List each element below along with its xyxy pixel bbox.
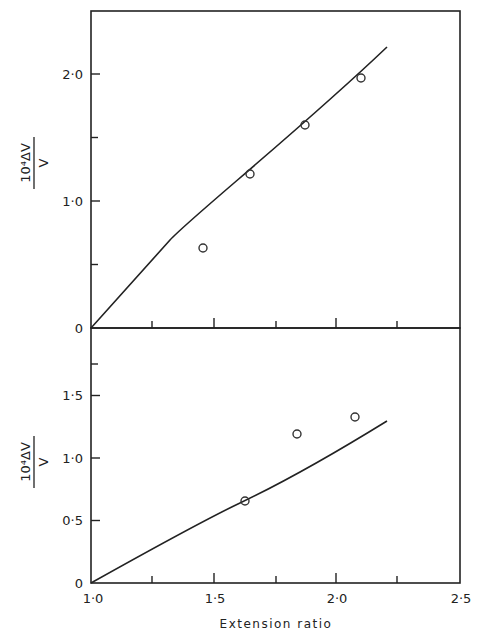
x-tick-label: 1·5	[205, 591, 226, 606]
x-tick-label: 2·5	[451, 591, 472, 606]
y-tick-label: 0·5	[62, 513, 83, 528]
top-x-ticks	[152, 318, 397, 328]
bottom-y-axis-title: 10⁴ΔV V	[18, 436, 51, 488]
data-point	[351, 413, 359, 421]
y-tick-label: 0	[75, 576, 83, 591]
x-tick-label: 2·0	[327, 591, 348, 606]
data-point	[246, 170, 254, 178]
bottom-panel	[91, 328, 460, 583]
y-tick-label: 2·0	[62, 67, 83, 82]
y-tick-label: 0	[75, 321, 83, 336]
y-axis-denominator: V	[36, 457, 51, 466]
y-axis-numerator: 10⁴ΔV	[18, 442, 33, 482]
top-panel-frame	[91, 11, 460, 328]
y-axis-numerator: 10⁴ΔV	[18, 143, 33, 183]
top-data-points	[199, 74, 365, 252]
bottom-x-ticks	[152, 573, 397, 583]
figure: 2·0 1·0 0 1·5 1·0 0·5 0 1·0 1·5 2·0 2·5 …	[0, 0, 480, 637]
y-tick-label: 1·0	[62, 194, 83, 209]
y-tick-label: 1·5	[62, 388, 83, 403]
bottom-theory-curve	[91, 421, 387, 583]
x-axis-title: Extension ratio	[220, 617, 333, 631]
bottom-y-ticks	[91, 364, 100, 521]
bottom-panel-frame	[91, 328, 460, 583]
y-tick-label: 1·0	[62, 451, 83, 466]
data-point	[357, 74, 365, 82]
top-y-axis-title: 10⁴ΔV V	[18, 137, 51, 189]
top-theory-curve	[91, 47, 387, 328]
x-tick-label: 1·0	[83, 591, 104, 606]
top-y-ticks	[91, 74, 100, 265]
y-axis-denominator: V	[36, 158, 51, 167]
data-point	[199, 244, 207, 252]
bottom-data-points	[241, 413, 359, 505]
data-point	[293, 430, 301, 438]
top-panel	[91, 11, 460, 328]
